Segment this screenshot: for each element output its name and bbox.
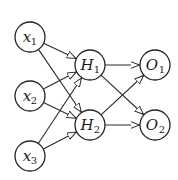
node-H1: H1 (75, 50, 105, 80)
node-O1: O1 (140, 50, 170, 80)
node-label: H (79, 116, 94, 134)
node-O2: O2 (140, 110, 170, 140)
node-subscript: 1 (94, 64, 100, 75)
node-subscript: 2 (94, 124, 100, 135)
edge-x3-to-H2 (43, 132, 76, 149)
node-x1: x1 (15, 22, 45, 52)
node-label: O (146, 116, 158, 134)
node-x2: x2 (15, 81, 45, 111)
node-label: H (79, 56, 94, 74)
node-subscript: 2 (31, 95, 37, 106)
node-subscript: 3 (31, 155, 37, 166)
node-x3: x3 (15, 141, 45, 171)
node-subscript: 1 (159, 64, 165, 75)
edge-x1-to-H1 (44, 43, 76, 58)
node-subscript: 1 (31, 36, 37, 47)
neural-network-diagram: x1x2x3H1H2O1O2 (0, 0, 178, 180)
nodes-group: x1x2x3H1H2O1O2 (15, 22, 170, 171)
node-subscript: 2 (159, 124, 165, 135)
edge-x2-to-H1 (43, 72, 76, 89)
node-H2: H2 (75, 110, 105, 140)
node-label: O (146, 56, 158, 74)
